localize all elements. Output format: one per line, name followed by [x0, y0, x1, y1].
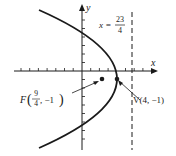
- y-axis: [79, 4, 85, 150]
- directrix-numerator: 23: [116, 15, 124, 24]
- parabola-curve: [39, 10, 117, 148]
- y-axis-label: y: [85, 2, 91, 13]
- directrix-denominator: 4: [118, 26, 122, 35]
- parabola-diagram: x y x = 23 4: [0, 0, 176, 156]
- focus-close-paren: ): [59, 92, 64, 108]
- x-axis-label: x: [150, 57, 156, 68]
- focus-y-text: , −1: [40, 95, 54, 105]
- x-axis: [14, 68, 158, 74]
- vertex-label: V(4, −1): [133, 95, 164, 105]
- focus-label: F ( 9 4 , −1 ): [19, 89, 64, 108]
- focus-point: [100, 77, 105, 82]
- focus-open-paren: (: [27, 92, 32, 108]
- focus-pointer-arrow: [72, 81, 99, 93]
- directrix-lhs: x =: [98, 20, 111, 30]
- directrix-label: x = 23 4: [98, 15, 125, 35]
- focus-x-denominator: 4: [34, 99, 38, 108]
- focus-label-prefix: F: [19, 94, 27, 105]
- focus-x-numerator: 9: [34, 89, 38, 98]
